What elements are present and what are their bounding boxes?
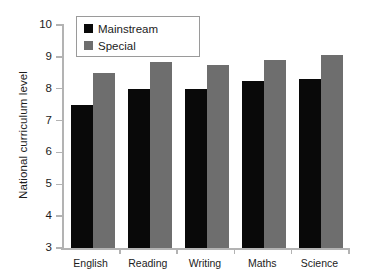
x-axis-line (61, 248, 350, 250)
y-axis-tick-label-wrap: 8 (0, 83, 52, 95)
y-axis-tick-label-wrap: 3 (0, 242, 52, 254)
plot-area (62, 25, 348, 248)
x-axis-label-maths: Maths (234, 257, 291, 269)
bar-science-mainstream (299, 79, 321, 248)
legend-swatch-mainstream (84, 24, 93, 33)
bar-reading-mainstream (128, 89, 150, 248)
x-axis-label-science: Science (291, 257, 348, 269)
y-axis-tick-label-wrap: 7 (0, 115, 52, 127)
bar-group (71, 25, 115, 248)
y-axis-tick-label-wrap: 4 (0, 210, 52, 222)
x-axis-tick (348, 249, 350, 254)
y-axis-tick-label-wrap: 6 (0, 146, 52, 158)
x-axis-tick (176, 249, 178, 254)
y-axis-tick-label: 5 (2, 178, 52, 190)
y-axis-tick-label: 7 (2, 115, 52, 127)
bar-english-special (93, 73, 115, 248)
bar-group (128, 25, 172, 248)
bar-chart: National curriculum level 345678910 Engl… (0, 0, 366, 280)
y-axis-tick-label-wrap: 10 (0, 19, 52, 31)
legend-item-special: Special (84, 37, 199, 54)
chart-legend: Mainstream Special (76, 16, 200, 57)
bar-maths-mainstream (242, 81, 264, 248)
y-axis-tick-label: 3 (2, 242, 52, 254)
bar-writing-special (207, 65, 229, 248)
bar-maths-special (264, 60, 286, 248)
bar-reading-special (150, 62, 172, 248)
legend-label-mainstream: Mainstream (98, 23, 158, 35)
x-axis-label-writing: Writing (176, 257, 233, 269)
y-axis-tick-label: 10 (2, 19, 52, 31)
x-axis-tick (119, 249, 121, 254)
y-axis-tick-label-wrap: 9 (0, 51, 52, 63)
legend-swatch-special (84, 41, 93, 50)
legend-item-mainstream: Mainstream (84, 20, 199, 37)
bar-science-special (321, 55, 343, 248)
bar-group (299, 25, 343, 248)
x-axis-label-english: English (62, 257, 119, 269)
legend-label-special: Special (98, 40, 136, 52)
x-axis-label-reading: Reading (119, 257, 176, 269)
y-axis-tick-label: 6 (2, 146, 52, 158)
bar-group (185, 25, 229, 248)
x-axis-tick (234, 249, 236, 254)
y-axis-tick-label: 4 (2, 210, 52, 222)
x-axis-tick (291, 249, 293, 254)
y-axis-tick-label: 9 (2, 51, 52, 63)
bar-writing-mainstream (185, 89, 207, 248)
y-axis-tick-label: 8 (2, 83, 52, 95)
y-axis-tick-label-wrap: 5 (0, 178, 52, 190)
bar-english-mainstream (71, 105, 93, 248)
bar-group (242, 25, 286, 248)
